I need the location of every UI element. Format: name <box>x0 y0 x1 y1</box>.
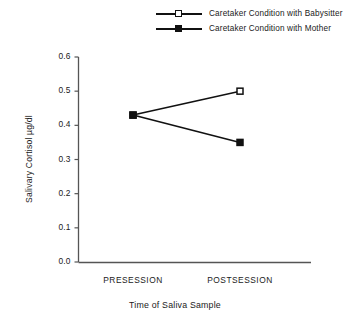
y-tick-label: 0.1 <box>41 223 71 232</box>
data-point-marker[interactable] <box>237 88 243 94</box>
y-axis-title: Salivary Cortisol µg/dl <box>24 79 34 239</box>
chart-figure: Caretaker Condition with Babysitter Care… <box>0 0 350 321</box>
data-point-marker[interactable] <box>237 139 243 145</box>
x-category-label: POSTSESSION <box>195 275 285 285</box>
series-babysitter <box>130 88 243 118</box>
series-mother <box>130 112 243 145</box>
y-tick-label: 0.4 <box>41 120 71 129</box>
y-tick-label: 0.3 <box>41 155 71 164</box>
series-line <box>133 91 240 115</box>
y-axis <box>75 57 79 262</box>
x-axis-title: Time of Saliva Sample <box>0 300 350 310</box>
data-point-marker[interactable] <box>130 112 136 118</box>
series-line <box>133 115 240 142</box>
x-category-label: PRESESSION <box>88 275 178 285</box>
y-tick-label: 0.0 <box>41 257 71 266</box>
series-layer <box>130 88 243 145</box>
y-tick-label: 0.2 <box>41 189 71 198</box>
y-tick-label: 0.6 <box>41 52 71 61</box>
y-tick-label: 0.5 <box>41 86 71 95</box>
